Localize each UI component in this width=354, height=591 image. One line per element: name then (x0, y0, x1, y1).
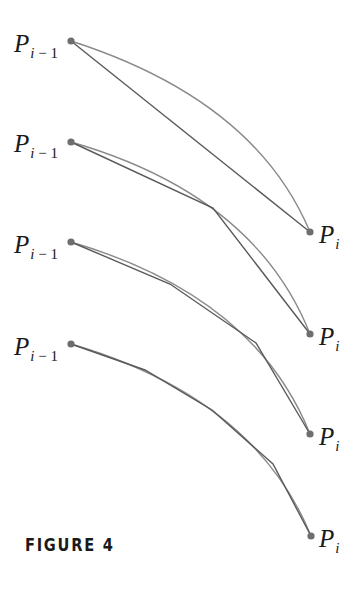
label-p-i: Pi (319, 424, 339, 449)
end-point (306, 228, 313, 235)
end-point (307, 532, 314, 539)
panel-4 (67, 340, 314, 539)
panel-3 (67, 238, 313, 437)
panel-2 (67, 138, 313, 337)
start-point (67, 37, 74, 44)
label-p-i-minus-1: Pi − 1 (14, 131, 58, 156)
start-point (67, 238, 74, 245)
start-point (67, 138, 74, 145)
approximating-polygon (71, 41, 310, 232)
panel-1 (67, 37, 313, 235)
curve-arc (71, 344, 311, 536)
figure-caption: FIGURE 4 (25, 535, 115, 555)
label-p-i-minus-1: Pi − 1 (14, 232, 58, 257)
start-point (67, 340, 74, 347)
label-p-i-minus-1: Pi − 1 (14, 31, 58, 56)
approximating-polygon (71, 242, 310, 434)
curve-arc (71, 242, 310, 434)
label-p-i: Pi (319, 324, 339, 349)
end-point (306, 430, 313, 437)
end-point (306, 330, 313, 337)
approximating-polygon (71, 344, 311, 536)
label-p-i: Pi (319, 222, 339, 247)
label-p-i: Pi (319, 526, 339, 551)
label-p-i-minus-1: Pi − 1 (14, 334, 58, 359)
polygon-approximation-diagram (0, 0, 354, 591)
